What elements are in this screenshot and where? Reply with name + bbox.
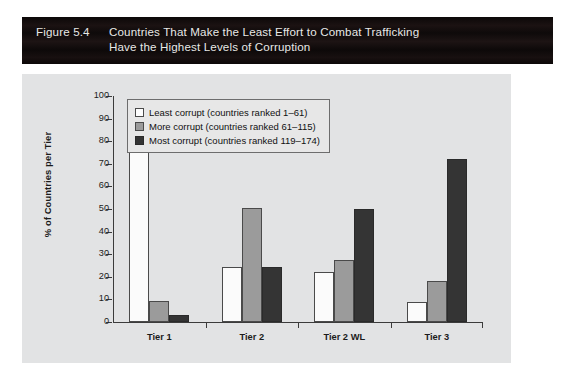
bar — [354, 209, 374, 322]
legend-item: Most corrupt (countries ranked 119–174) — [135, 133, 320, 147]
bar — [334, 260, 354, 322]
y-tick: 70 — [113, 164, 114, 165]
y-tick: 40 — [113, 232, 114, 233]
chart-panel: % of Countries per Tier 0102030405060708… — [22, 74, 511, 363]
y-tick: 80 — [113, 141, 114, 142]
chart-legend: Least corrupt (countries ranked 1–61)Mor… — [127, 99, 330, 153]
legend-item: Least corrupt (countries ranked 1–61) — [135, 105, 320, 119]
bar — [149, 301, 169, 322]
y-tick: 100 — [113, 96, 114, 97]
y-tick: 0 — [113, 322, 114, 323]
y-tick-label: 90 — [99, 113, 109, 123]
x-category-label: Tier 2 — [239, 332, 264, 342]
bar — [242, 208, 262, 322]
figure-number: Figure 5.4 — [36, 24, 109, 39]
bar — [222, 267, 242, 322]
y-tick-label: 60 — [99, 180, 109, 190]
x-tick-mark — [206, 322, 207, 328]
x-tick-mark — [391, 322, 392, 328]
x-tick-mark — [482, 322, 483, 328]
y-tick: 60 — [113, 186, 114, 187]
bar — [169, 315, 189, 322]
y-tick-label: 0 — [104, 316, 109, 326]
y-tick: 20 — [113, 277, 114, 278]
figure-title-line-2: Have the Highest Levels of Corruption — [109, 40, 310, 53]
bar — [262, 267, 282, 322]
bar — [314, 272, 334, 322]
figure-title-line-1: Countries That Make the Least Effort to … — [109, 24, 419, 39]
y-tick-label: 20 — [99, 271, 109, 281]
legend-swatch-icon — [135, 122, 144, 131]
x-category-label: Tier 3 — [424, 332, 449, 342]
figure-title-banner: Figure 5.4Countries That Make the Least … — [22, 17, 553, 64]
legend-label: More corrupt (countries ranked 61–115) — [149, 121, 316, 132]
x-category-label: Tier 1 — [147, 332, 172, 342]
x-category-label: Tier 2 WL — [323, 332, 365, 342]
y-tick: 30 — [113, 254, 114, 255]
bar — [447, 159, 467, 322]
bar — [129, 125, 149, 322]
y-tick: 90 — [113, 119, 114, 120]
legend-item: More corrupt (countries ranked 61–115) — [135, 119, 320, 133]
y-tick-label: 10 — [99, 293, 109, 303]
figure-banner-line-1: Figure 5.4Countries That Make the Least … — [36, 24, 553, 39]
legend-swatch-icon — [135, 108, 144, 117]
legend-label: Most corrupt (countries ranked 119–174) — [149, 135, 320, 146]
y-tick: 50 — [113, 209, 114, 210]
legend-swatch-icon — [135, 136, 144, 145]
y-tick: 10 — [113, 299, 114, 300]
y-tick-label: 40 — [99, 226, 109, 236]
x-tick-mark — [298, 322, 299, 328]
y-tick-label: 70 — [99, 158, 109, 168]
y-tick-label: 80 — [99, 135, 109, 145]
figure-banner-line-2: Have the Highest Levels of Corruption — [36, 39, 553, 54]
y-tick-label: 100 — [94, 90, 109, 100]
legend-label: Least corrupt (countries ranked 1–61) — [149, 107, 307, 118]
y-tick-label: 30 — [99, 248, 109, 258]
bar — [407, 302, 427, 322]
y-axis-title: % of Countries per Tier — [42, 100, 53, 270]
bar — [427, 281, 447, 322]
y-tick-label: 50 — [99, 203, 109, 213]
